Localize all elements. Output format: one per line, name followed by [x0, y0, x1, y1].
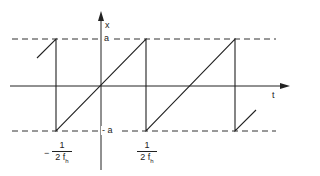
lower-level-label: - a: [101, 126, 114, 135]
tick-denominator: 2 fh: [137, 153, 157, 164]
tick-numerator: 1: [52, 141, 72, 150]
x-axis-label: x: [105, 21, 110, 30]
negative-tick-sign: −: [44, 148, 49, 158]
t-axis-arrowhead: [280, 83, 290, 89]
t-axis-label: t: [272, 91, 275, 100]
positive-half-period-tick: 1 2 fh: [137, 141, 157, 164]
upper-level-label: a: [104, 34, 109, 43]
negative-half-period-tick: 1 2 fh: [52, 141, 72, 164]
sawtooth-waveform: [37, 39, 256, 131]
tick-denominator: 2 fh: [52, 153, 72, 164]
x-axis-arrowhead: [98, 11, 104, 21]
tick-numerator: 1: [137, 141, 157, 150]
